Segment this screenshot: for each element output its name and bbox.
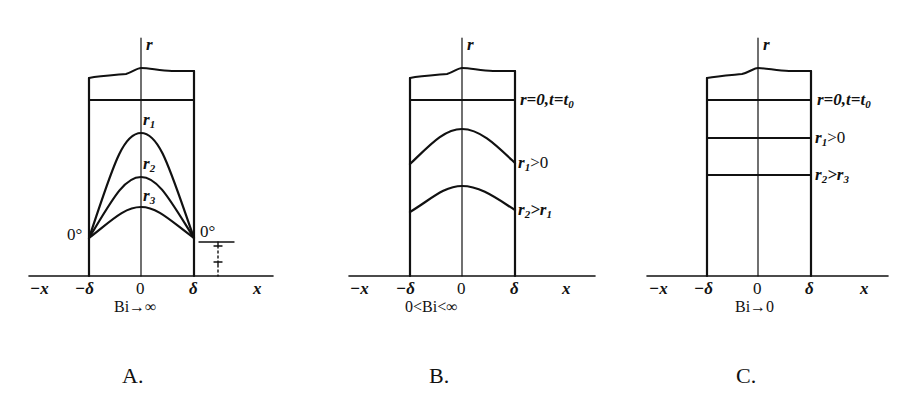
r-axis-label: r xyxy=(467,35,474,55)
tick-x: x xyxy=(860,279,869,299)
curve-label-r2: r2 xyxy=(143,154,155,174)
tick-x: x xyxy=(562,279,571,299)
condition-label: Bi→∞ xyxy=(114,298,157,316)
tick-neg-x: −x xyxy=(350,279,369,299)
condition-label: Bi→0 xyxy=(735,298,774,316)
right-wall-temp: 0° xyxy=(200,222,215,242)
line-label-r2: r2>r3 xyxy=(815,165,849,185)
tick-zero: 0 xyxy=(136,279,145,299)
tick-zero: 0 xyxy=(753,279,762,299)
condition-label: 0<Bi<∞ xyxy=(405,298,458,316)
tick-x: x xyxy=(253,279,262,299)
line-label-initial: r=0,t=t0 xyxy=(817,90,871,110)
r-axis-label: r xyxy=(146,35,153,55)
panel-caption: A. xyxy=(122,363,143,389)
line-label-r1: r1>0 xyxy=(815,128,845,148)
r-axis-label: r xyxy=(763,35,770,55)
curve-label-r1: r1 xyxy=(143,110,155,130)
panel-caption: B. xyxy=(429,363,449,389)
tick-neg-delta: −δ xyxy=(396,279,415,299)
curve-label-r2: r2>r1 xyxy=(518,200,552,220)
panel-caption: C. xyxy=(736,363,756,389)
panel-c-graphics xyxy=(647,38,888,276)
diagram-canvas xyxy=(0,0,900,407)
tick-neg-delta: −δ xyxy=(694,279,713,299)
tick-neg-delta: −δ xyxy=(75,279,94,299)
tick-delta: δ xyxy=(510,279,519,299)
tick-neg-x: −x xyxy=(649,279,668,299)
left-wall-temp: 0° xyxy=(67,225,82,245)
curve-label-r3: r3 xyxy=(143,186,155,206)
tick-delta: δ xyxy=(805,279,814,299)
tick-zero: 0 xyxy=(457,279,466,299)
curve-label-initial: r=0,t=t0 xyxy=(520,90,574,110)
curve-label-r1: r1>0 xyxy=(518,153,548,173)
tick-delta: δ xyxy=(189,279,198,299)
panel-b-graphics xyxy=(349,38,595,276)
tick-neg-x: −x xyxy=(30,279,49,299)
